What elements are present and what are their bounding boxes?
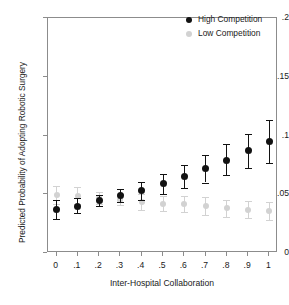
x-tick-mark (247, 252, 248, 256)
error-bar-cap (74, 198, 81, 199)
legend-marker-circle-icon (186, 17, 192, 23)
x-tick-label: .7 (194, 259, 216, 271)
y-tick-mark (43, 252, 47, 253)
data-point-marker (160, 180, 167, 187)
x-tick-mark (226, 252, 227, 256)
x-tick-label: .8 (215, 259, 237, 271)
data-point-marker (138, 187, 145, 194)
data-point-marker (245, 147, 252, 154)
data-point-marker (53, 206, 60, 213)
error-bar-cap (266, 163, 273, 164)
x-tick-mark (268, 252, 269, 256)
legend-label: High Competition (198, 13, 262, 26)
error-bar-cap (138, 182, 145, 183)
x-tick-label: .3 (108, 259, 130, 271)
x-tick-mark (183, 252, 184, 256)
series-high-competition (48, 18, 276, 251)
error-bar-cap (138, 200, 145, 201)
x-tick-mark (162, 252, 163, 256)
error-bar-cap (53, 200, 60, 201)
x-axis-title: Inter-Hospital Collaboration (47, 277, 277, 290)
data-point-marker (266, 138, 273, 145)
legend-marker-circle-icon (186, 31, 192, 37)
error-bar-cap (202, 183, 209, 184)
x-tick-label: .5 (151, 259, 173, 271)
y-axis-title: Predicted Probability of Adopting Roboti… (15, 0, 29, 305)
error-bar-cap (245, 134, 252, 135)
legend-label: Low Competition (198, 27, 260, 40)
data-point-marker (202, 165, 209, 172)
plot-area (47, 17, 277, 252)
chart-legend: High Competition Low Competition (186, 13, 286, 41)
x-tick-label: .2 (87, 259, 109, 271)
error-bar-cap (117, 189, 124, 190)
error-bar-cap (160, 174, 167, 175)
legend-item-low-competition: Low Competition (186, 27, 286, 40)
data-point-marker (181, 173, 188, 180)
error-bar-cap (117, 202, 124, 203)
error-bar-cap (53, 219, 60, 220)
error-bar-cap (223, 175, 230, 176)
data-point-marker (117, 192, 124, 199)
data-point-marker (96, 197, 103, 204)
x-tick-mark (56, 252, 57, 256)
x-tick-mark (119, 252, 120, 256)
error-bar-cap (181, 165, 188, 166)
x-tick-label: 0 (45, 259, 67, 271)
error-bar-cap (181, 188, 188, 189)
x-tick-label: .9 (236, 259, 258, 271)
error-bar-cap (160, 194, 167, 195)
data-point-marker (223, 157, 230, 164)
error-bar-cap (245, 168, 252, 169)
legend-item-high-competition: High Competition (186, 13, 286, 26)
x-tick-label: .6 (172, 259, 194, 271)
error-bar-cap (202, 155, 209, 156)
x-tick-label: .1 (66, 259, 88, 271)
x-tick-mark (77, 252, 78, 256)
x-tick-mark (205, 252, 206, 256)
chart-figure: Predicted Probability of Adopting Roboti… (0, 0, 289, 305)
error-bar-cap (74, 213, 81, 214)
error-bar-cap (266, 120, 273, 121)
error-bar-cap (96, 206, 103, 207)
x-tick-mark (98, 252, 99, 256)
x-tick-label: .4 (130, 259, 152, 271)
data-point-marker (74, 203, 81, 210)
error-bar-cap (223, 144, 230, 145)
x-tick-mark (141, 252, 142, 256)
x-tick-label: 1 (257, 259, 279, 271)
